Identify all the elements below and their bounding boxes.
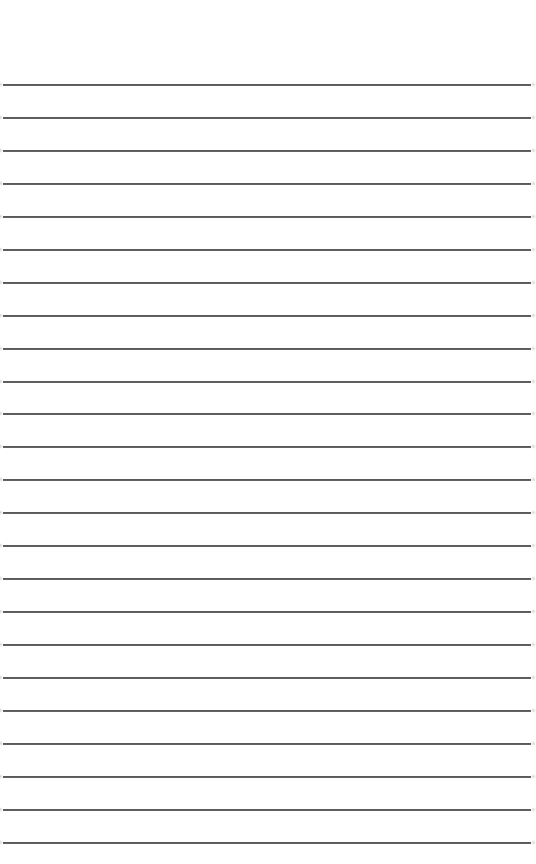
rule-edge-mark xyxy=(0,411,3,416)
rule-edge-mark xyxy=(0,576,3,581)
rule-edge-mark xyxy=(0,543,3,548)
rule-edge-mark xyxy=(531,346,536,351)
rule-edge-mark xyxy=(0,675,3,680)
rule-edge-mark xyxy=(0,247,3,252)
rule-edge-mark xyxy=(0,346,3,351)
ruled-line xyxy=(3,183,531,185)
rule-edge-mark xyxy=(0,642,3,647)
rule-edge-mark xyxy=(531,576,536,581)
ruled-line xyxy=(3,84,531,86)
rule-edge-mark xyxy=(531,741,536,746)
rule-edge-mark xyxy=(0,82,3,87)
rule-edge-mark xyxy=(0,477,3,482)
ruled-line xyxy=(3,677,531,679)
ruled-line xyxy=(3,512,531,514)
rule-edge-mark xyxy=(0,741,3,746)
ruled-line xyxy=(3,249,531,251)
rule-edge-mark xyxy=(0,115,3,120)
ruled-line xyxy=(3,117,531,119)
rule-edge-mark xyxy=(531,148,536,153)
ruled-line xyxy=(3,743,531,745)
rule-edge-mark xyxy=(531,115,536,120)
rule-edge-mark xyxy=(531,840,536,845)
rule-edge-mark xyxy=(531,82,536,87)
ruled-line xyxy=(3,381,531,383)
rule-edge-mark xyxy=(0,181,3,186)
rule-edge-mark xyxy=(0,840,3,845)
rule-edge-mark xyxy=(531,379,536,384)
ruled-line xyxy=(3,150,531,152)
rule-edge-mark xyxy=(0,774,3,779)
ruled-line xyxy=(3,578,531,580)
rule-edge-mark xyxy=(531,444,536,449)
ruled-line xyxy=(3,611,531,613)
ruled-line xyxy=(3,282,531,284)
rule-edge-mark xyxy=(531,181,536,186)
rule-edge-mark xyxy=(531,280,536,285)
ruled-line xyxy=(3,479,531,481)
rule-edge-mark xyxy=(0,280,3,285)
rule-edge-mark xyxy=(0,807,3,812)
ruled-line xyxy=(3,413,531,415)
rule-edge-mark xyxy=(531,708,536,713)
ruled-line xyxy=(3,446,531,448)
rule-edge-mark xyxy=(531,774,536,779)
rule-edge-mark xyxy=(531,609,536,614)
rule-edge-mark xyxy=(531,247,536,252)
rule-edge-mark xyxy=(531,807,536,812)
rule-edge-mark xyxy=(531,411,536,416)
ruled-line xyxy=(3,315,531,317)
rule-edge-mark xyxy=(0,214,3,219)
rule-edge-mark xyxy=(531,510,536,515)
lined-paper-sheet xyxy=(0,0,536,864)
rule-edge-mark xyxy=(0,510,3,515)
rule-edge-mark xyxy=(0,708,3,713)
ruled-line xyxy=(3,644,531,646)
ruled-line xyxy=(3,710,531,712)
ruled-line xyxy=(3,216,531,218)
ruled-line xyxy=(3,545,531,547)
ruled-line xyxy=(3,809,531,811)
rule-edge-mark xyxy=(0,444,3,449)
rule-edge-mark xyxy=(531,642,536,647)
rule-edge-mark xyxy=(0,148,3,153)
rule-edge-mark xyxy=(531,313,536,318)
ruled-line xyxy=(3,842,531,844)
rule-edge-mark xyxy=(531,477,536,482)
rule-edge-mark xyxy=(0,379,3,384)
rule-edge-mark xyxy=(531,543,536,548)
rule-edge-mark xyxy=(531,675,536,680)
rule-edge-mark xyxy=(531,214,536,219)
rule-edge-mark xyxy=(0,609,3,614)
rule-edge-mark xyxy=(0,313,3,318)
ruled-line xyxy=(3,348,531,350)
ruled-line xyxy=(3,776,531,778)
